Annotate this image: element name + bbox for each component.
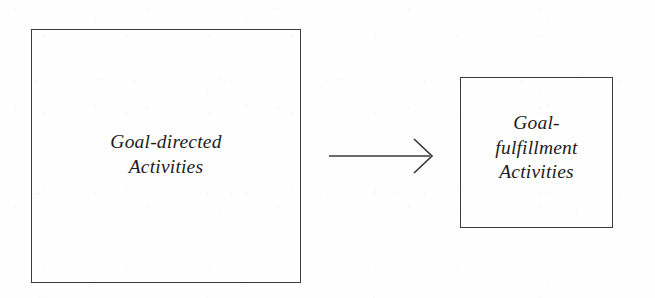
node-box-goal-directed: Goal-directed Activities [31,29,301,283]
node-label-goal-directed: Goal-directed Activities [110,130,221,179]
node-label-line: Activities [110,155,221,180]
node-label-line: Activities [495,160,577,185]
arrow-icon [326,133,438,179]
node-label-line: fulfillment [495,136,577,161]
node-box-goal-fulfillment: Goal- fulfillment Activities [460,77,613,228]
node-label-line: Goal-directed [110,130,221,155]
diagram-canvas: Goal-directed Activities Goal- fulfillme… [0,0,655,298]
node-label-line: Goal- [495,111,577,136]
node-label-goal-fulfillment: Goal- fulfillment Activities [495,111,577,186]
arrow-goal-directed-to-goal-fulfillment [326,133,438,179]
